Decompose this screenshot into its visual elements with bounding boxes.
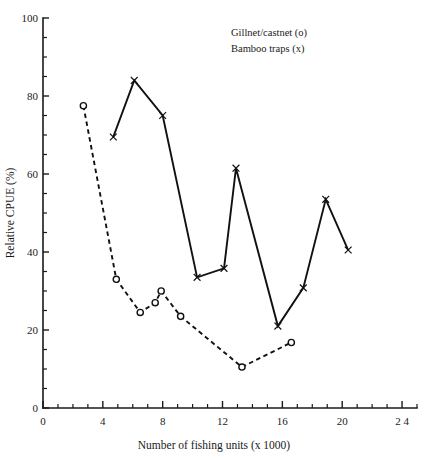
legend: Gillnet/castnet (o) Bamboo traps (x) xyxy=(231,27,308,55)
y-tick-label: 20 xyxy=(27,324,39,336)
data-point-circle-marker xyxy=(80,103,86,109)
chart-plot-area: 020406080100 0481216202 4 Gillnet/castne… xyxy=(0,0,428,458)
y-tick-label: 100 xyxy=(22,12,39,24)
y-tick-label: 0 xyxy=(33,402,39,414)
y-axis-title: Relative CPUE (%) xyxy=(4,167,17,258)
y-axis-tick-labels: 020406080100 xyxy=(22,12,39,414)
data-point-circle-marker xyxy=(178,313,184,319)
series-bamboo-traps xyxy=(110,77,352,330)
data-point-cross-marker xyxy=(345,247,352,254)
legend-entry-bamboo-traps: Bamboo traps (x) xyxy=(231,43,305,55)
y-tick-label: 60 xyxy=(27,168,39,180)
data-point-circle-marker xyxy=(113,276,119,282)
y-tick-label: 80 xyxy=(27,90,39,102)
x-axis-title: Number of fishing units (x 1000) xyxy=(138,439,291,452)
x-tick-label: 20 xyxy=(337,415,349,427)
x-tick-label: 0 xyxy=(40,415,46,427)
series-line xyxy=(83,106,291,367)
data-point-circle-marker xyxy=(152,300,158,306)
data-point-circle-marker xyxy=(137,309,143,315)
x-tick-label: 8 xyxy=(160,415,166,427)
series-line xyxy=(113,80,348,326)
axis-x: 0481216202 4 xyxy=(40,401,417,427)
axis-y: 020406080100 xyxy=(22,12,50,414)
x-tick-label: 2 4 xyxy=(395,415,409,427)
x-tick-label: 12 xyxy=(217,415,228,427)
chart-figure: 020406080100 0481216202 4 Gillnet/castne… xyxy=(0,0,428,458)
x-tick-label: 4 xyxy=(100,415,106,427)
chart-series-layer xyxy=(80,77,351,370)
series-gillnet-castnet xyxy=(80,103,294,371)
data-point-circle-marker xyxy=(288,339,294,345)
x-tick-label: 16 xyxy=(277,415,289,427)
x-axis-tick-labels: 0481216202 4 xyxy=(40,415,409,427)
data-point-circle-marker xyxy=(239,364,245,370)
data-point-circle-marker xyxy=(158,288,164,294)
legend-entry-gillnet-castnet: Gillnet/castnet (o) xyxy=(231,27,308,39)
x-axis-major-ticks xyxy=(43,401,402,408)
y-tick-label: 40 xyxy=(27,246,39,258)
